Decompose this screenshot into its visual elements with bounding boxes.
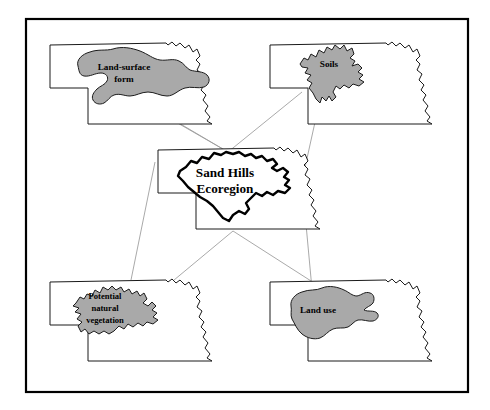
panel-label-potential-natural-vegetation-line2: natural (91, 303, 119, 313)
panel-label-land-surface-form-line1: Land-surface (98, 62, 151, 72)
panel-label-soils: Soils (320, 59, 339, 69)
panel-label-center-line2: Ecoregion (197, 181, 255, 196)
panel-label-land-use: Land use (300, 305, 336, 315)
figure-root: Land-surface form Soils Sand Hills Ecore… (0, 0, 490, 410)
panel-label-land-surface-form-line2: form (114, 74, 134, 84)
panel-label-center-line1: Sand Hills (196, 165, 254, 180)
panel-label-potential-natural-vegetation-line1: Potential (89, 291, 123, 301)
panel-label-potential-natural-vegetation-line3: vegetation (86, 315, 124, 325)
